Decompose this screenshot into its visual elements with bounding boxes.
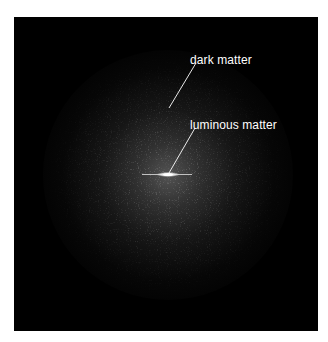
- figure-overlay: [14, 17, 318, 331]
- luminous-matter-label: luminous matter: [190, 118, 277, 132]
- dark-matter-label: dark matter: [190, 53, 252, 67]
- figure-frame: dark matter luminous matter: [14, 17, 318, 331]
